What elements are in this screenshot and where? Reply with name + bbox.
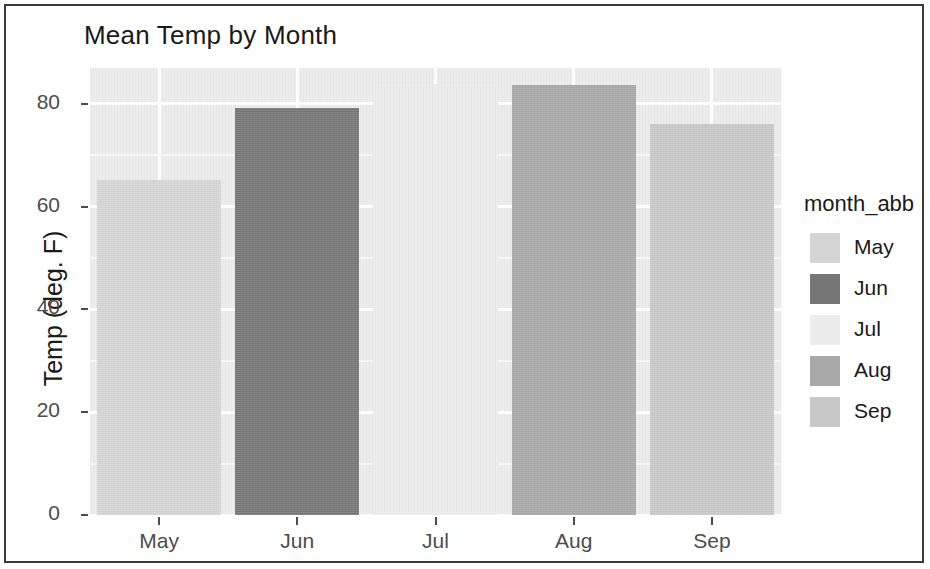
bar-aug — [512, 85, 636, 515]
y-tick-label: 0 — [48, 501, 60, 525]
x-tick-mark — [158, 517, 160, 525]
legend-swatch-sep — [810, 397, 840, 427]
legend-label: Jul — [854, 317, 881, 341]
y-tick-label: 80 — [37, 90, 60, 114]
x-tick-label: May — [99, 529, 219, 553]
x-tick-label: Jul — [376, 529, 496, 553]
legend-item-may: May — [810, 231, 930, 265]
legend-swatch-jun — [810, 274, 840, 304]
x-tick-label: Jun — [237, 529, 357, 553]
legend-item-jun: Jun — [810, 272, 930, 306]
chart-frame: Mean Temp by Month Temp (deg. F) 0204060… — [4, 4, 924, 563]
bar-jul — [373, 84, 497, 515]
x-tick-mark — [711, 517, 713, 525]
y-tick-mark — [81, 206, 88, 208]
x-tick-label: Sep — [652, 529, 772, 553]
bar-may — [97, 180, 221, 515]
legend-label: Sep — [854, 399, 891, 423]
x-tick-mark — [435, 517, 437, 525]
x-tick-label: Aug — [514, 529, 634, 553]
legend-swatch-aug — [810, 356, 840, 386]
y-tick-mark — [81, 308, 88, 310]
x-tick-mark — [296, 517, 298, 525]
legend-title: month_abb — [804, 191, 914, 217]
y-tick-mark — [81, 411, 88, 413]
legend-swatch-may — [810, 233, 840, 263]
legend-label: Aug — [854, 358, 891, 382]
plot-panel — [90, 68, 781, 515]
y-tick-mark — [81, 103, 88, 105]
y-tick-mark — [81, 514, 88, 516]
legend-swatch-jul — [810, 315, 840, 345]
bar-sep — [650, 124, 774, 515]
legend-label: May — [854, 235, 894, 259]
y-tick-label: 40 — [37, 295, 60, 319]
legend-label: Jun — [854, 276, 888, 300]
legend-item-aug: Aug — [810, 354, 930, 388]
y-tick-label: 60 — [37, 193, 60, 217]
bar-jun — [235, 108, 359, 515]
legend-item-jul: Jul — [810, 313, 930, 347]
page-title: Mean Temp by Month — [84, 20, 337, 51]
x-tick-mark — [573, 517, 575, 525]
legend-item-sep: Sep — [810, 395, 930, 429]
y-tick-label: 20 — [37, 398, 60, 422]
